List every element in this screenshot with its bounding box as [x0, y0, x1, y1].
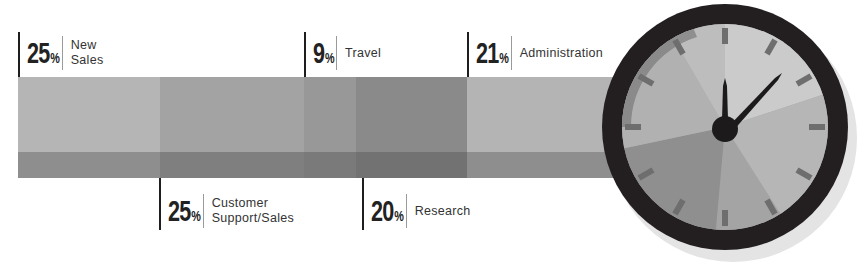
percent-value: 20% [371, 196, 403, 226]
bar-segment-new-sales [18, 77, 160, 178]
percent-value: 25% [168, 196, 200, 226]
label-travel: 9% Travel [304, 32, 381, 74]
percent-value: 25% [27, 38, 59, 68]
percent-value: 9% [313, 38, 334, 68]
bar-segment-research [356, 77, 467, 178]
label-administration: 21% Administration [467, 32, 603, 74]
category-label: CustomerSupport/Sales [212, 196, 294, 226]
bar-segment-administration [467, 77, 617, 178]
bar-segment-travel [304, 77, 356, 178]
category-label: NewSales [71, 38, 104, 68]
label-new-sales: 25% NewSales [18, 32, 104, 74]
label-research: 20% Research [362, 190, 471, 232]
clock-pie-icon [597, 0, 864, 269]
category-label: Travel [345, 46, 381, 61]
category-label: Research [415, 204, 471, 219]
label-customer-support: 25% CustomerSupport/Sales [159, 190, 294, 232]
percent-value: 21% [476, 38, 508, 68]
bar-segment-customer-support [160, 77, 304, 178]
category-label: Administration [520, 46, 603, 61]
